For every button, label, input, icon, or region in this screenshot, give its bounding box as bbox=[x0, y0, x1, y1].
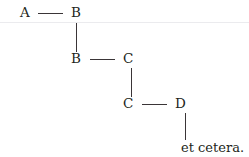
horizontal-connector-row3 bbox=[142, 104, 167, 105]
node-row2-left: B bbox=[71, 52, 81, 66]
node-row1-left: A bbox=[20, 6, 30, 20]
vertical-connector-2 bbox=[131, 68, 132, 97]
vertical-connector-3 bbox=[185, 113, 186, 140]
node-row2-right: C bbox=[123, 52, 133, 66]
horizontal-connector-row2 bbox=[90, 59, 115, 60]
node-row3-left: C bbox=[123, 97, 133, 111]
vertical-connector-1 bbox=[76, 23, 77, 52]
page-rule-divider bbox=[0, 22, 249, 23]
et-cetera-label: et cetera. bbox=[181, 141, 244, 154]
horizontal-connector-row1 bbox=[38, 13, 63, 14]
node-row1-right: B bbox=[71, 6, 81, 20]
node-row3-right: D bbox=[175, 97, 186, 111]
staircase-diagram-canvas: A B B C C D et cetera. bbox=[0, 0, 249, 157]
